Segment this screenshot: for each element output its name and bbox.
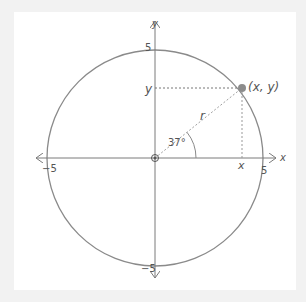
unit-circle-diagram: y x 5 −5 −5 5 (x, y) r 37° y x	[0, 0, 306, 302]
angle-arc	[187, 132, 196, 158]
point-label: (x, y)	[248, 80, 279, 94]
y-projection-label: y	[144, 82, 153, 96]
tick-x-neg: −5	[42, 163, 57, 174]
tick-y-neg: −5	[141, 263, 156, 274]
angle-label: 37°	[168, 137, 186, 148]
y-axis-label: y	[151, 18, 159, 29]
x-projection-label: x	[237, 159, 245, 172]
radius-label: r	[200, 109, 206, 123]
point-xy	[238, 84, 246, 92]
tick-x-pos: 5	[261, 165, 267, 176]
tick-y-pos: 5	[145, 42, 151, 53]
x-axis-label: x	[279, 152, 286, 163]
